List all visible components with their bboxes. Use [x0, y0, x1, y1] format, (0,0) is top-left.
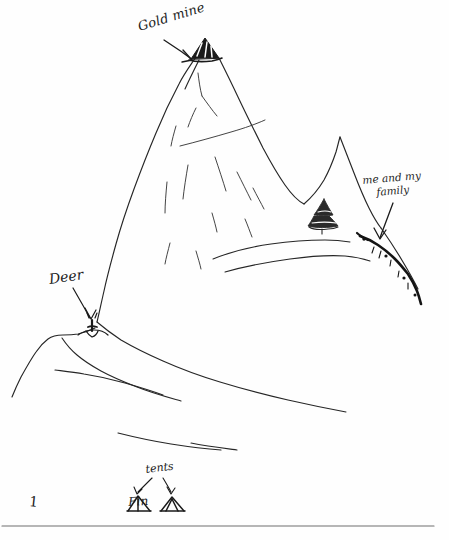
paper-background: [0, 0, 449, 540]
sketch-canvas: [0, 0, 449, 540]
sketch-page: Gold mine me and my family Deer tents Fi…: [0, 0, 449, 540]
